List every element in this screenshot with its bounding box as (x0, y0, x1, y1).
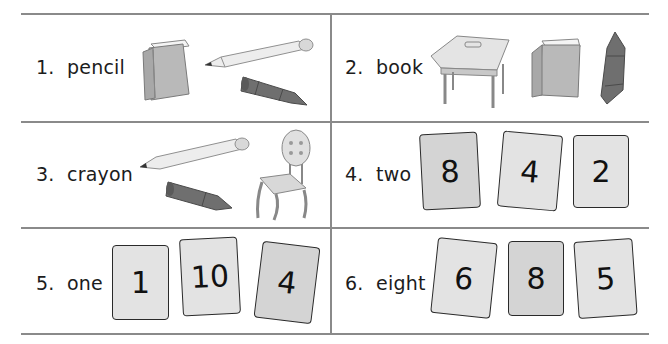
number-card[interactable]: 6 (430, 237, 498, 319)
book-picture[interactable] (526, 35, 586, 101)
card-number: 5 (595, 260, 616, 296)
pencil-picture[interactable] (138, 135, 250, 171)
rule-line-top (21, 13, 649, 15)
crayon-picture[interactable] (597, 30, 631, 108)
number-card[interactable]: 5 (573, 238, 637, 319)
crayon-picture[interactable] (164, 178, 236, 214)
rule-line-bottom (21, 333, 649, 335)
book-picture[interactable] (137, 36, 195, 102)
chair-picture[interactable] (252, 128, 318, 222)
column-divider (330, 14, 332, 335)
number-card[interactable]: 8 (508, 241, 564, 316)
card-number: 4 (275, 264, 298, 301)
card-number: 1 (131, 265, 150, 300)
number-card[interactable]: 8 (419, 132, 481, 211)
card-number: 8 (440, 153, 461, 189)
item-1-label: 1. pencil (36, 56, 125, 78)
card-number: 10 (190, 258, 230, 295)
crayon-picture[interactable] (239, 73, 311, 109)
pencil-picture[interactable] (203, 37, 315, 69)
rule-line-row1 (21, 121, 649, 123)
rule-line-row2 (21, 227, 649, 229)
card-number: 8 (526, 261, 545, 296)
card-number: 2 (591, 154, 610, 189)
card-number: 6 (453, 260, 476, 297)
number-card[interactable]: 1 (112, 245, 169, 320)
item-4-label: 4. two (345, 163, 411, 185)
card-number: 4 (519, 153, 541, 190)
item-6-label: 6. eight (345, 272, 426, 294)
number-card[interactable]: 10 (179, 237, 241, 317)
item-5-label: 5. one (36, 272, 103, 294)
number-card[interactable]: 4 (254, 241, 321, 324)
number-card[interactable]: 4 (497, 131, 563, 212)
item-3-label: 3. crayon (36, 163, 133, 185)
desk-picture[interactable] (427, 34, 513, 110)
item-2-label: 2. book (345, 56, 423, 78)
number-card[interactable]: 2 (573, 135, 629, 208)
